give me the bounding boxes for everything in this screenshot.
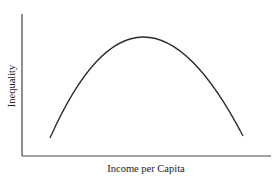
chart-canvas: Income per Capita Inequality: [0, 0, 280, 176]
kuznets-curve: [50, 37, 243, 138]
y-axis-label: Inequality: [6, 64, 17, 107]
x-axis-label: Income per Capita: [107, 163, 185, 174]
